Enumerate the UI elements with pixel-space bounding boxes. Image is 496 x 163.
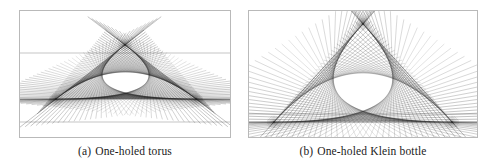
line-envelope-drawing-a: [19, 10, 231, 138]
caption-panel-b: (b)One-holed Klein bottle: [248, 142, 478, 160]
caption-text-b: One-holed Klein bottle: [317, 145, 426, 157]
caption-label-b: (b): [299, 145, 313, 157]
figure-panel-one-holed-torus: [19, 10, 231, 138]
caption-text-a: One-holed torus: [95, 145, 172, 157]
envelope-line-group: [248, 10, 478, 138]
line-envelope-drawing-b: [248, 10, 478, 138]
envelope-line-group: [19, 17, 231, 128]
figure-panel-one-holed-klein-bottle: [248, 10, 478, 138]
caption-panel-a: (a)One-holed torus: [19, 142, 231, 160]
caption-label-a: (a): [78, 145, 91, 157]
figure-root: (a)One-holed torus (b)One-holed Klein bo…: [0, 0, 496, 163]
